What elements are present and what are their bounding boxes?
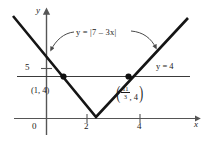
- y-tick-label-5: 5: [25, 63, 30, 72]
- x-tick-label-2: 2: [84, 122, 89, 131]
- y-axis-label: y: [36, 6, 40, 15]
- x-tick-label-4: 4: [137, 122, 142, 131]
- x-axis: [14, 114, 196, 123]
- fraction-eleven-thirds: 11 3: [121, 85, 129, 100]
- horizontal-line-label: y = 4: [156, 62, 174, 71]
- leader-line-right: [131, 31, 156, 48]
- x-axis-label: x: [194, 120, 198, 129]
- left-paren: (: [116, 83, 120, 102]
- curve-equation-label: y = |7 – 3x|: [76, 28, 116, 37]
- right-paren: ): [139, 83, 143, 102]
- absolute-value-graph-figure: y x 5 0 2 4 y = |7 – 3x| y = 4 (1, 4) ( …: [0, 0, 207, 145]
- point-right-tail: , 4: [130, 93, 139, 103]
- fraction-denominator: 3: [123, 93, 128, 100]
- intersection-point-right: [125, 73, 131, 79]
- x-tick-label-0: 0: [32, 122, 37, 131]
- leader-line-left: [51, 32, 74, 50]
- y-axis: [41, 13, 52, 135]
- fraction-numerator: 11: [121, 85, 129, 92]
- point-label-right: ( 11 3 , 4 ): [115, 83, 144, 102]
- intersection-point-left: [60, 73, 66, 79]
- point-label-left: (1, 4): [31, 86, 49, 95]
